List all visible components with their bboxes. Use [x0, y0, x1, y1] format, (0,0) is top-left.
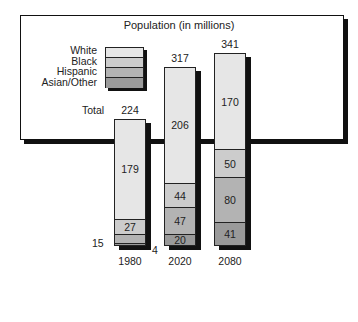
year-label-1980: 1980 [110, 255, 150, 267]
outside-label-asian-other-1980: 4 [152, 244, 158, 256]
segment-black-2020: 44 [165, 183, 195, 208]
segment-hispanic-2020: 47 [165, 207, 195, 233]
bar-2080: 170508041 [214, 53, 246, 246]
segment-asian-other-1980 [115, 243, 145, 245]
year-label-2080: 2080 [210, 255, 250, 267]
legend-label-hispanic: Hispanic [40, 66, 97, 77]
legend-swatch-hispanic [106, 68, 143, 78]
total-2080: 341 [210, 38, 250, 50]
legend-swatch-black [106, 58, 143, 68]
segment-white-2020: 206 [165, 68, 195, 183]
segment-black-2080: 50 [215, 149, 245, 177]
legend-swatch-asian-other [106, 78, 143, 88]
total-1980: 224 [110, 104, 150, 116]
outside-label-hispanic-1980: 15 [92, 237, 104, 249]
segment-white-1980: 179 [115, 120, 145, 220]
chart-title: Population (in millions) [0, 19, 358, 31]
segment-black-1980: 27 [115, 219, 145, 234]
segment-white-2080: 170 [215, 54, 245, 149]
legend-label-asian-other: Asian/Other [40, 77, 97, 88]
legend-label-white: White [40, 45, 97, 56]
legend-labels: White Black Hispanic Asian/Other [40, 45, 97, 87]
bar-2020: 206444720 [164, 67, 196, 246]
total-2020: 317 [160, 52, 200, 64]
segment-asian-other-2080: 41 [215, 222, 245, 245]
bar-1980: 17927 [114, 119, 146, 246]
segment-hispanic-2080: 80 [215, 177, 245, 222]
year-label-2020: 2020 [160, 255, 200, 267]
legend-swatch-white [106, 48, 143, 58]
segment-hispanic-1980 [115, 234, 145, 242]
segment-asian-other-2020: 20 [165, 234, 195, 245]
legend-box [105, 47, 144, 88]
total-prefix-label: Total [82, 104, 104, 116]
